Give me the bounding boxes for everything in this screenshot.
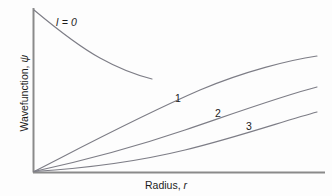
y-axis-label: Wavefunction, ψ — [19, 23, 30, 163]
curve-1 — [34, 56, 317, 172]
y-axis-label-symbol: ψ — [18, 55, 30, 63]
curve-label-l0: l = 0 — [56, 17, 77, 28]
curve-l0 — [34, 10, 152, 79]
x-axis-label: Radius, r — [0, 180, 332, 191]
x-axis-label-symbol: r — [184, 179, 188, 191]
plot-area — [0, 0, 332, 196]
y-axis-label-text: Wavefunction, — [18, 63, 30, 132]
wavefunction-vs-radius-figure: l = 0 1 2 3 Radius, r Wavefunction, ψ — [0, 0, 332, 196]
curve-label-3: 3 — [246, 121, 252, 132]
x-axis-label-text: Radius, — [145, 179, 184, 191]
curve-3 — [34, 112, 317, 172]
curve-label-2: 2 — [215, 108, 221, 119]
curve-label-1: 1 — [175, 93, 181, 104]
